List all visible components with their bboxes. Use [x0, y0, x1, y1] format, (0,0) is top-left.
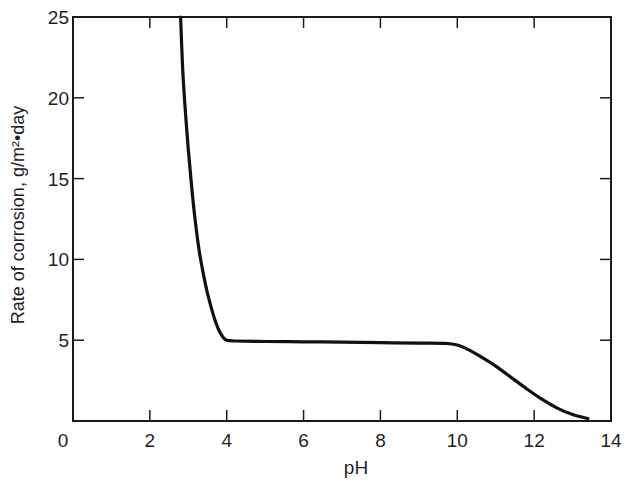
chart: 02468101214510152025 pH Rate of corrosio… [0, 0, 633, 492]
x-tick-label: 0 [58, 430, 69, 451]
x-tick-label: 10 [447, 430, 468, 451]
y-axis-label: Rate of corrosion, g/m²•day [8, 106, 28, 324]
corrosion-rate-curve [181, 17, 588, 419]
y-tick-label: 15 [48, 169, 69, 190]
x-tick-label: 12 [524, 430, 545, 451]
x-tick-label: 8 [375, 430, 386, 451]
y-tick-label: 25 [48, 7, 69, 28]
x-tick-label: 14 [600, 430, 622, 451]
data-series [181, 17, 588, 419]
x-tick-label: 6 [298, 430, 309, 451]
plot-border [73, 17, 611, 421]
y-tick-label: 5 [58, 330, 69, 351]
x-axis-label: pH [344, 457, 368, 478]
x-tick-label: 2 [145, 430, 156, 451]
plot-frame [73, 17, 611, 421]
axis-ticks [73, 17, 611, 421]
corrosion-rate-plot: 02468101214510152025 pH Rate of corrosio… [0, 0, 633, 492]
tick-labels: 02468101214510152025 [48, 7, 622, 451]
y-tick-label: 10 [48, 249, 69, 270]
x-tick-label: 4 [221, 430, 232, 451]
y-tick-label: 20 [48, 88, 69, 109]
